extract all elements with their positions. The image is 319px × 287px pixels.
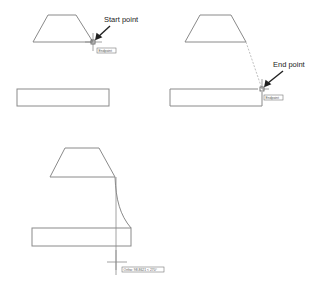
rectangle: [170, 89, 262, 106]
panel-end-point: End point Endpoint: [170, 15, 306, 106]
trapezoid: [185, 15, 246, 42]
snap-tooltip-text: Endpoint: [99, 49, 112, 53]
drawing-canvas: Start point Endpoint End point Endpoint …: [0, 0, 319, 287]
trapezoid: [50, 148, 115, 177]
rubber-band-line: [246, 42, 262, 89]
arc-curve: [115, 177, 131, 228]
rectangle: [17, 89, 109, 106]
trapezoid: [33, 15, 93, 42]
ortho-tooltip-text: Ortho: 98.8621 < 270°: [124, 268, 158, 272]
end-point-label: End point: [273, 60, 306, 69]
panel-ortho: Ortho: 98.8621 < 270°: [32, 148, 164, 275]
callout-arrow: [268, 71, 283, 83]
snap-tooltip-text: Endpoint: [266, 96, 279, 100]
start-point-label: Start point: [104, 15, 139, 24]
panel-start-point: Start point Endpoint: [17, 15, 139, 106]
